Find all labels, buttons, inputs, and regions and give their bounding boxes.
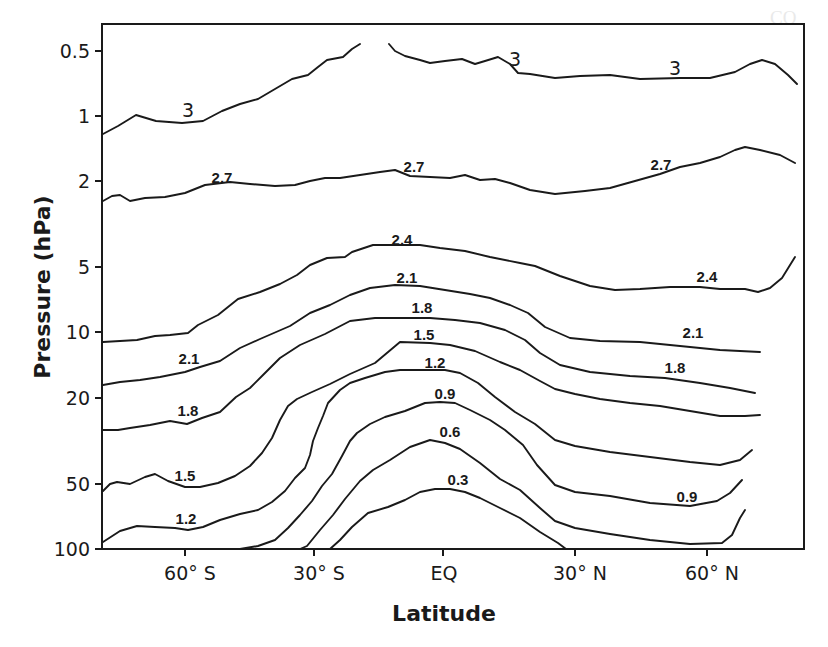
y-tick-label: 100 [54, 538, 90, 560]
contour-label: 0.9 [435, 385, 456, 402]
contour-label: 1.8 [178, 402, 199, 419]
x-tick-label: 60° N [685, 562, 739, 584]
contour-label: 3 [182, 99, 194, 121]
contour-2.7 [103, 147, 795, 201]
contour-label: 3 [669, 57, 681, 79]
y-tick-label: 10 [66, 321, 90, 343]
contour-label: 2.1 [397, 269, 418, 286]
contour-label: 0.6 [440, 423, 461, 440]
contour-label: 1.2 [176, 510, 197, 527]
contour-label: 2.4 [392, 231, 414, 248]
contour-label: 2.7 [212, 169, 233, 186]
contour-0.3 [330, 489, 566, 549]
x-tick-label: 30° S [293, 562, 345, 584]
contour-label: 1.2 [425, 354, 446, 371]
y-axis-title: Pressure (hPa) [30, 195, 55, 378]
y-axis: 0.5 1 2 5 10 20 50 100 [54, 40, 102, 560]
contour-label: 1.5 [414, 326, 435, 343]
contour-label: 3 [509, 48, 521, 70]
contour-label: 0.9 [677, 488, 698, 505]
contour-label: 2.7 [651, 156, 672, 173]
contour-label: 0.3 [448, 471, 469, 488]
x-tick-label: 60° S [164, 562, 216, 584]
y-tick-label: 2 [78, 170, 90, 192]
x-axis: 60° S 30° S EQ 30° N 60° N [164, 549, 739, 584]
contour-3-left [103, 44, 360, 134]
y-tick-label: 50 [66, 473, 90, 495]
y-tick-label: 5 [78, 256, 90, 278]
x-tick-label: 30° N [553, 562, 607, 584]
contour-3-right [389, 44, 797, 84]
contour-label: 2.4 [697, 268, 719, 285]
contour-chart: CO 0.5 1 2 5 10 20 50 100 60° S 30° S EQ… [0, 0, 828, 647]
contour-label: 2.7 [404, 158, 425, 175]
x-axis-title: Latitude [392, 601, 496, 626]
contour-label: 1.5 [175, 467, 196, 484]
y-tick-label: 0.5 [60, 40, 90, 62]
y-tick-label: 1 [78, 105, 90, 127]
contour-0.9 [240, 402, 742, 549]
contour-label: 2.1 [683, 324, 704, 341]
contour-label: 2.1 [179, 350, 200, 367]
contour-label: 1.8 [412, 299, 433, 316]
contour-1.2 [103, 370, 752, 542]
x-tick-label: EQ [431, 562, 458, 584]
contour-label: 1.8 [665, 359, 686, 376]
y-tick-label: 20 [66, 387, 90, 409]
